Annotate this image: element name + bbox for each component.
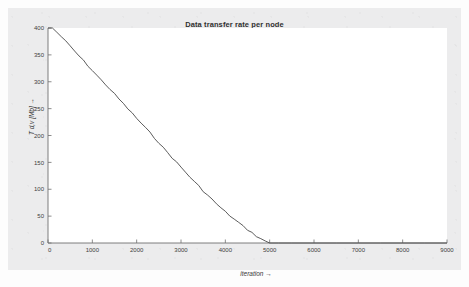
x-tick-label: 0	[48, 247, 52, 253]
x-tick-label: 2000	[130, 247, 144, 253]
x-tick-label: 8000	[396, 247, 410, 253]
x-axis-label: iteration →	[56, 270, 456, 277]
x-tick-label: 9000	[440, 247, 454, 253]
y-tick-label: 200	[34, 133, 45, 139]
y-tick-label: 250	[34, 106, 45, 112]
x-tick-label: 6000	[307, 247, 321, 253]
y-tick-label: 350	[34, 52, 45, 58]
plot-area-background	[48, 28, 447, 243]
x-tick-label: 3000	[174, 247, 188, 253]
y-tick-label: 300	[34, 79, 45, 85]
x-tick-label: 4000	[219, 247, 233, 253]
y-tick-label: 50	[37, 213, 44, 219]
y-tick-label: 400	[34, 25, 45, 31]
y-tick-label: 150	[34, 160, 45, 166]
plot-canvas: 050100150200250300350400 010002000300040…	[8, 8, 461, 270]
figure-panel: Data transfer rate per node iteration → …	[8, 8, 461, 270]
y-tick-label: 100	[34, 186, 45, 192]
y-tick-label: 0	[41, 240, 45, 246]
x-tick-label: 7000	[352, 247, 366, 253]
x-tick-label: 5000	[263, 247, 277, 253]
x-tick-label: 1000	[86, 247, 100, 253]
